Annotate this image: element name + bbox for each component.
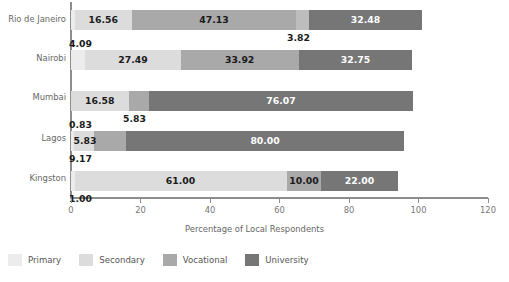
x-tick-40 xyxy=(210,198,211,203)
value-rio-university: 32.48 xyxy=(309,10,422,30)
callout-rio-extra: 3.82 xyxy=(287,32,310,43)
legend-swatch-university xyxy=(245,254,259,266)
x-tick-label-100: 100 xyxy=(411,205,427,215)
callout-nairobi-primary: 4.09 xyxy=(69,38,92,49)
legend-label-vocational: Vocational xyxy=(183,255,228,265)
x-tick-label-80: 80 xyxy=(344,205,355,215)
legend-swatch-primary xyxy=(8,254,22,266)
x-tick-100 xyxy=(418,198,419,203)
legend-item-secondary[interactable]: Secondary xyxy=(79,254,145,266)
x-tick-0 xyxy=(71,198,72,203)
legend-item-university[interactable]: University xyxy=(245,254,308,266)
value-lagos-secondary: 5.83 xyxy=(69,131,101,151)
value-kingston-vocational: 10.00 xyxy=(287,171,322,191)
chart-legend: Primary Secondary Vocational University xyxy=(8,252,327,268)
x-tick-label-120: 120 xyxy=(480,205,496,215)
legend-swatch-secondary xyxy=(79,254,93,266)
value-kingston-university: 22.00 xyxy=(321,171,398,191)
x-tick-60 xyxy=(279,198,280,203)
legend-item-vocational[interactable]: Vocational xyxy=(163,254,228,266)
segment-mumbai-vocational xyxy=(129,91,149,111)
legend-item-primary[interactable]: Primary xyxy=(8,254,61,266)
value-nairobi-vocational: 33.92 xyxy=(181,50,299,70)
value-kingston-secondary: 61.00 xyxy=(75,171,287,191)
category-label-nairobi: Nairobi xyxy=(0,53,66,63)
value-nairobi-university: 32.75 xyxy=(299,50,413,70)
x-tick-label-40: 40 xyxy=(205,205,216,215)
value-mumbai-secondary: 16.58 xyxy=(71,91,129,111)
legend-label-primary: Primary xyxy=(28,255,61,265)
callout-mumbai-vocational: 5.83 xyxy=(123,113,146,124)
callout-lagos-primary: 0.83 xyxy=(69,119,92,130)
callout-lagos-vocational: 9.17 xyxy=(69,153,92,164)
x-axis-title: Percentage of Local Respondents xyxy=(0,224,509,234)
legend-swatch-vocational xyxy=(163,254,177,266)
x-tick-label-60: 60 xyxy=(274,205,285,215)
value-rio-secondary: 16.56 xyxy=(75,10,133,30)
plot-area: 16.56 47.13 32.48 3.82 27.49 33.92 32.75… xyxy=(71,0,488,200)
segment-rio-extra xyxy=(296,10,309,30)
category-label-kingston: Kingston xyxy=(0,173,66,183)
value-lagos-university: 80.00 xyxy=(126,131,404,151)
x-tick-80 xyxy=(349,198,350,203)
category-label-lagos: Lagos xyxy=(0,133,66,143)
category-label-mumbai: Mumbai xyxy=(0,92,66,102)
value-rio-vocational: 47.13 xyxy=(132,10,296,30)
x-tick-label-20: 20 xyxy=(135,205,146,215)
legend-label-university: University xyxy=(265,255,308,265)
segment-nairobi-primary xyxy=(71,50,85,70)
value-mumbai-university: 76.07 xyxy=(149,91,413,111)
callout-kingston-primary: 1.00 xyxy=(69,193,92,204)
legend-label-secondary: Secondary xyxy=(99,255,145,265)
category-label-rio: Rio de Janeiro xyxy=(0,14,66,24)
x-tick-20 xyxy=(140,198,141,203)
stacked-bar-chart: Rio de Janeiro Nairobi Mumbai Lagos King… xyxy=(0,0,509,282)
x-tick-120 xyxy=(488,198,489,203)
value-nairobi-secondary: 27.49 xyxy=(85,50,181,70)
x-tick-label-0: 0 xyxy=(68,205,73,215)
